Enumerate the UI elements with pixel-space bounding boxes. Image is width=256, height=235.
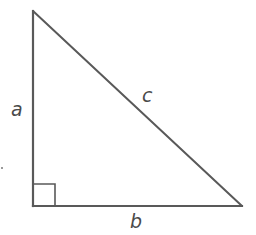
label-a: a xyxy=(11,98,23,120)
label-c: c xyxy=(142,84,153,106)
stray-dot xyxy=(1,167,3,169)
right-angle-marker xyxy=(33,184,55,206)
side-c-hypotenuse xyxy=(33,11,242,206)
label-b: b xyxy=(130,210,142,232)
right-triangle-diagram: a b c xyxy=(0,0,256,235)
